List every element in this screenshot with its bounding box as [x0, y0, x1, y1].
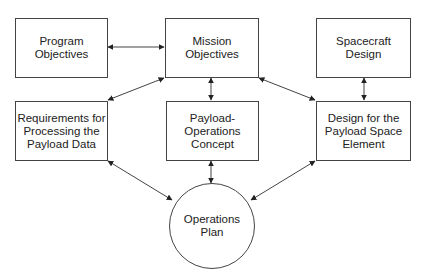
node-payload-operations-concept: Payload- Operations Concept: [166, 101, 259, 161]
node-label-line: Design for the: [328, 112, 400, 125]
node-label-line: Mission: [193, 35, 232, 48]
arrow-mission-requirements: [108, 78, 164, 100]
node-label-line: Payload Data: [27, 138, 96, 151]
arrow-mission-designpayload: [259, 78, 315, 100]
node-label-line: Element: [342, 138, 384, 151]
node-label-line: Concept: [191, 138, 234, 151]
node-design-payload-space-element: Design for the Payload Space Element: [316, 101, 411, 161]
node-label-line: Payload-: [190, 112, 235, 125]
node-label-line: Operations: [184, 125, 240, 138]
node-program-objectives: Program Objectives: [15, 18, 108, 78]
operations-plan-diagram: Program Objectives Mission Objectives Sp…: [0, 0, 422, 276]
node-mission-objectives: Mission Objectives: [165, 18, 259, 78]
node-label-line: Payload Space: [325, 125, 402, 138]
node-label-line: Objectives: [35, 48, 89, 61]
node-label-line: Plan: [200, 226, 223, 239]
node-operations-plan: Operations Plan: [169, 183, 255, 269]
node-label-line: Operations: [184, 213, 240, 226]
node-label-line: Requirements for: [17, 112, 105, 125]
arrow-requirements-opsplan: [108, 161, 172, 200]
node-requirements-processing: Requirements for Processing the Payload …: [15, 101, 108, 161]
node-spacecraft-design: Spacecraft Design: [316, 18, 411, 78]
node-label-line: Program: [39, 35, 83, 48]
arrow-designpayload-opsplan: [251, 161, 315, 200]
node-label-line: Spacecraft: [336, 35, 391, 48]
node-label-line: Objectives: [185, 48, 239, 61]
node-label-line: Processing the: [23, 125, 99, 138]
node-label-line: Design: [346, 48, 382, 61]
